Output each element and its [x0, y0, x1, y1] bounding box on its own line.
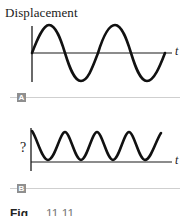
panel-b-t-label: t [175, 153, 178, 168]
caption-number: 11.11 [46, 207, 74, 216]
figure-caption: Fig11.11 [10, 207, 74, 216]
panel-a-label-badge: A [17, 93, 26, 102]
caption-label: Fig [10, 207, 28, 216]
panel-b-label-badge: B [17, 184, 26, 193]
panel-b-rectified-curve [32, 131, 161, 160]
panel-b-question-mark: ? [20, 140, 26, 156]
panel-b-divider [10, 188, 180, 189]
panel-a-graph [0, 0, 192, 216]
panel-a-t-label: t [175, 44, 178, 59]
panel-a-divider [10, 97, 180, 98]
